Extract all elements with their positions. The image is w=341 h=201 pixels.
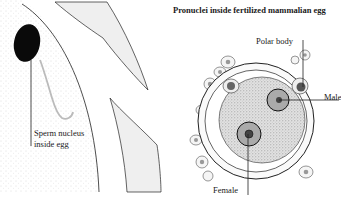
lower-membrane-fold bbox=[110, 98, 161, 192]
female-label: Female bbox=[213, 186, 238, 195]
diagram-title: Pronuclei inside fertilized mammalian eg… bbox=[173, 5, 326, 15]
inside-egg-label: inside egg bbox=[34, 140, 69, 149]
male-label: Male bbox=[324, 93, 341, 102]
left-panel-sperm-in-egg bbox=[0, 0, 161, 192]
right-panel-fertilized-egg bbox=[190, 40, 339, 195]
sperm-nucleus-label: Sperm nucleus bbox=[34, 129, 84, 138]
egg-cytoplasm bbox=[0, 0, 100, 192]
polar-body-label: Polar body bbox=[256, 37, 293, 46]
